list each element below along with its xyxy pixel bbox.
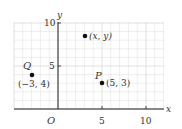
y-axis-label: y bbox=[56, 10, 63, 20]
y-tick-label-5: 5 bbox=[49, 61, 55, 71]
point-q bbox=[30, 73, 35, 78]
coordinate-plane: x y O 5 10 5 10 (x, y) Q (−3, 4) P (5, 3… bbox=[0, 0, 182, 129]
point-p-label: (5, 3) bbox=[106, 78, 130, 88]
point-q-label: (−3, 4) bbox=[18, 79, 50, 89]
point-xy-label: (x, y) bbox=[89, 31, 112, 41]
x-tick-label-10: 10 bbox=[140, 116, 152, 126]
point-q-letter: Q bbox=[23, 60, 31, 71]
x-axis-label: x bbox=[166, 104, 171, 114]
x-tick-label-5: 5 bbox=[99, 116, 105, 126]
point-p-letter: P bbox=[94, 70, 102, 81]
origin-label: O bbox=[47, 115, 55, 126]
point-xy bbox=[83, 34, 88, 39]
y-tick-label-10: 10 bbox=[44, 18, 56, 28]
point-p bbox=[100, 81, 105, 86]
